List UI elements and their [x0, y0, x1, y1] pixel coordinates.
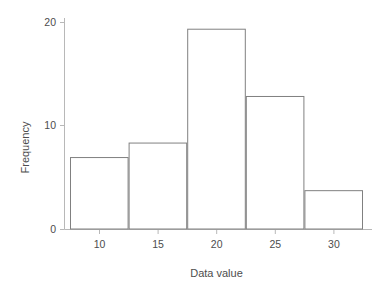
x-tick-label-20: 20 — [202, 238, 232, 251]
x-tick-label-25: 25 — [260, 238, 290, 251]
histogram-bar — [246, 96, 304, 229]
histogram-bar — [188, 29, 246, 229]
y-axis-label: Frequency — [16, 0, 34, 295]
x-axis-label: Data value — [64, 266, 369, 280]
x-tick-label-10: 10 — [85, 238, 115, 251]
histogram-bar — [129, 143, 187, 229]
histogram-bar — [305, 191, 363, 229]
histogram-figure: 20 10 0 10 15 20 25 30 Frequency Data va… — [0, 0, 382, 295]
x-tick-label-30: 30 — [319, 238, 349, 251]
histogram-bar — [71, 158, 129, 229]
histogram-bars — [71, 29, 363, 229]
x-tick-label-15: 15 — [143, 238, 173, 251]
